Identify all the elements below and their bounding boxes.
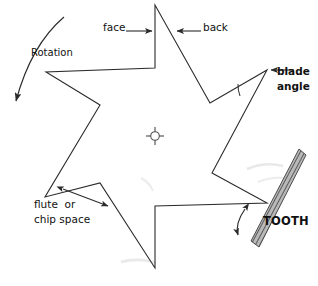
tooth-angle-arrow [237, 209, 245, 235]
label-face: face [103, 21, 125, 33]
label-back: back [203, 21, 228, 33]
blade-outline [45, 5, 267, 268]
label-blade-angle-line1: blade [277, 65, 310, 77]
center-mark-icon [146, 127, 164, 145]
label-tooth: TOOTH [263, 215, 309, 228]
rotation-arrow-icon [16, 17, 64, 101]
label-blade-angle-line2: angle [277, 80, 310, 92]
label-rotation: Rotation [31, 47, 73, 59]
saw-blade-diagram [0, 0, 318, 286]
diagram-canvas: face back Rotation blade angle flute or … [0, 0, 318, 286]
label-flute-line2: chip space [34, 213, 90, 225]
label-flute-line1: flute or [34, 198, 75, 210]
